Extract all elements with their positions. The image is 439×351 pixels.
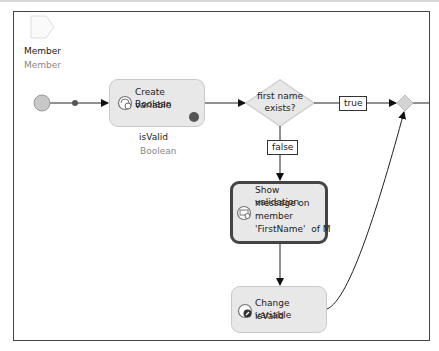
validation-message-icon <box>236 205 252 221</box>
activity-label-line2: variable <box>135 99 171 111</box>
create-variable-icon <box>117 95 133 111</box>
parameter-type: Member <box>24 60 61 70</box>
start-event-icon[interactable] <box>34 95 50 111</box>
decision-label: first name exists? <box>250 90 310 114</box>
change-variable-icon <box>237 303 253 319</box>
decision-label-line2: exists? <box>250 102 310 114</box>
activity-label-line2: isValid <box>255 310 284 322</box>
decision-label-line1: first name <box>250 90 310 102</box>
activity-label-line4: 'FirstName' of M <box>255 223 330 235</box>
false-branch-label: false <box>267 140 298 155</box>
variable-name: isValid <box>139 132 168 142</box>
activity-label-line3: member <box>255 210 293 222</box>
create-variable-activity[interactable]: Create Boolean variable <box>109 79 205 127</box>
flow-connectors <box>0 0 439 351</box>
change-variable-activity[interactable]: Change variable isValid <box>231 286 327 333</box>
merge-diamond[interactable] <box>397 95 413 111</box>
show-validation-message-activity[interactable]: Show validation message on member 'First… <box>230 181 328 244</box>
true-branch-label: true <box>339 96 367 111</box>
variable-type: Boolean <box>140 146 176 156</box>
error-handler-dot-icon <box>189 112 199 122</box>
parameter-name: Member <box>24 46 61 56</box>
parameter-icon[interactable] <box>31 16 54 38</box>
activity-label-line2: message on <box>255 197 310 209</box>
connector-dot-icon <box>72 100 78 106</box>
